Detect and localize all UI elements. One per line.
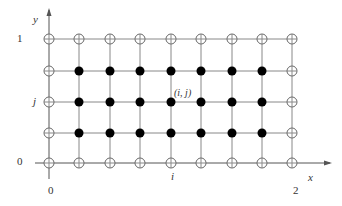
node-ij-label: (i, j) [174, 88, 191, 98]
y-tick-j: j [33, 96, 36, 107]
x-tick-0: 0 [48, 185, 54, 196]
grid-diagram: y x 1 j 0 0 i 2 (i, j) [0, 0, 342, 206]
interior-node-filled-circle-icon [75, 129, 84, 138]
interior-node-filled-circle-icon [258, 129, 267, 138]
interior-node-filled-circle-icon [197, 67, 206, 76]
interior-node-filled-circle-icon [167, 98, 176, 107]
y-axis-arrow-icon [47, 8, 52, 16]
y-tick-1: 1 [17, 33, 23, 44]
interior-node-filled-circle-icon [228, 67, 237, 76]
interior-node-filled-circle-icon [197, 129, 206, 138]
interior-node-filled-circle-icon [75, 67, 84, 76]
interior-node-filled-circle-icon [197, 98, 206, 107]
interior-node-filled-circle-icon [258, 67, 267, 76]
interior-node-filled-circle-icon [228, 129, 237, 138]
interior-node-filled-circle-icon [75, 98, 84, 107]
interior-node-filled-circle-icon [258, 98, 267, 107]
interior-node-filled-circle-icon [106, 67, 115, 76]
x-axis-arrow-icon [324, 161, 332, 166]
interior-node-filled-circle-icon [228, 98, 237, 107]
interior-node-filled-circle-icon [136, 67, 145, 76]
y-tick-0: 0 [17, 156, 23, 167]
interior-node-filled-circle-icon [106, 129, 115, 138]
interior-node-filled-circle-icon [136, 129, 145, 138]
interior-node-filled-circle-icon [167, 67, 176, 76]
x-tick-2: 2 [293, 185, 299, 196]
y-axis-label: y [33, 14, 38, 25]
x-tick-i: i [171, 171, 174, 182]
x-axis-label: x [308, 172, 313, 183]
interior-node-filled-circle-icon [167, 129, 176, 138]
interior-node-filled-circle-icon [106, 98, 115, 107]
interior-node-filled-circle-icon [136, 98, 145, 107]
